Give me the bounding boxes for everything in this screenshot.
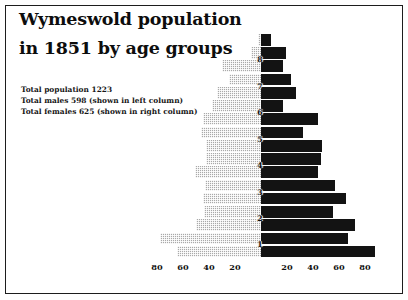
legend-total-females: Total females 625 (shown in right column… — [21, 106, 251, 117]
title-line-2: in 1851 by age groups — [19, 39, 259, 57]
title-line-1: Wymeswold population — [19, 10, 259, 28]
page-title: Wymeswold population in 1851 by age grou… — [19, 10, 259, 58]
legend-total-population: Total population 1223 — [21, 84, 251, 95]
legend-summary: Total population 1223 Total males 598 (s… — [21, 84, 251, 118]
legend-total-males: Total males 598 (shown in left column) — [21, 95, 251, 106]
poster-root: Wymeswold population in 1851 by age grou… — [0, 0, 408, 300]
